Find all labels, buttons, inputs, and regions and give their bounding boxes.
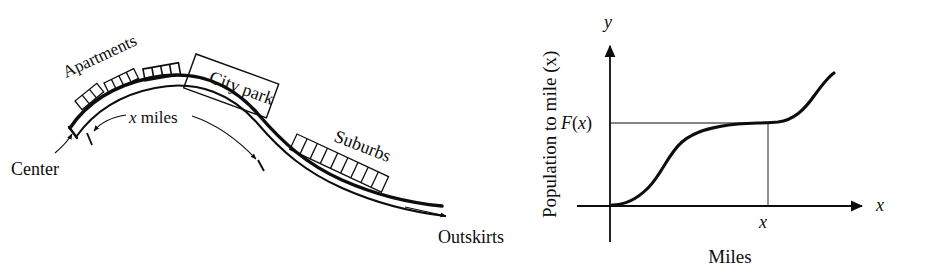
- x-miles-tick-end: [258, 160, 264, 171]
- city-road-diagram: Apartments City park Suburbs Center Outs…: [11, 31, 504, 247]
- center-pointer-arrow: [55, 134, 72, 153]
- x-miles-label: x miles: [128, 108, 178, 127]
- outskirts-arrow: [405, 207, 446, 216]
- y-axis-title: Population to mile (x): [539, 51, 561, 218]
- x-miles-arrow-right: [192, 116, 256, 159]
- figure-canvas: Apartments City park Suburbs Center Outs…: [0, 0, 926, 275]
- x-tick-label: x: [758, 212, 767, 232]
- population-function-graph: y x F(x) x Population to mile (x) Miles: [539, 12, 884, 267]
- x-miles-tick-start: [87, 133, 92, 145]
- x-axis-title: Miles: [708, 246, 751, 267]
- fx-tick-label: F(x): [560, 113, 592, 134]
- city-park-label: City park: [207, 67, 277, 109]
- figure-root: Apartments City park Suburbs Center Outs…: [0, 0, 926, 275]
- population-curve: [612, 73, 834, 205]
- y-axis-tip-label: y: [602, 12, 612, 32]
- apartments-block-2: [104, 69, 138, 93]
- suburbs-label: Suburbs: [332, 126, 394, 166]
- outskirts-label: Outskirts: [438, 227, 504, 247]
- center-label: Center: [11, 159, 59, 179]
- x-miles-arrow-left: [94, 115, 126, 131]
- x-axis-tip-label: x: [875, 195, 884, 215]
